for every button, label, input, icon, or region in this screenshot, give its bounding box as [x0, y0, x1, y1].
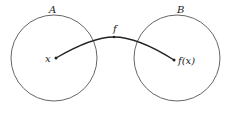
set-b-circle — [134, 15, 220, 101]
set-a-circle — [11, 15, 97, 101]
point-fx-label: f(x) — [177, 55, 195, 66]
point-x-label: x — [45, 53, 51, 64]
point-x-dot — [55, 57, 58, 60]
function-mapping-diagram: A B f x f(x) — [0, 0, 227, 113]
set-b-label: B — [176, 4, 184, 15]
curve-midpoint-dot — [113, 36, 116, 39]
set-a-label: A — [48, 4, 56, 15]
mapping-curve — [56, 37, 174, 60]
function-label: f — [112, 23, 119, 34]
point-fx-dot — [173, 59, 176, 62]
